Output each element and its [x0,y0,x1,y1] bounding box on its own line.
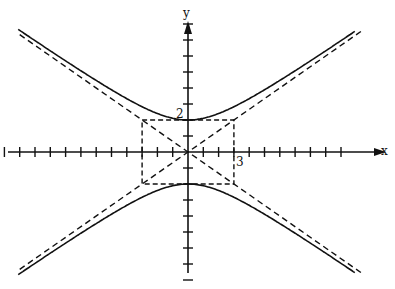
lower-branch [18,184,355,275]
axes [4,21,386,280]
y-axis-arrow-icon [184,21,192,34]
tick-label-x-3: 3 [236,155,244,169]
upper-branch [18,29,355,120]
x-axis-label: x [381,144,388,158]
hyperbola-diagram: y x 2 3 [0,0,395,289]
tick-label-y-2: 2 [176,107,184,121]
y-axis-label: y [182,6,190,20]
